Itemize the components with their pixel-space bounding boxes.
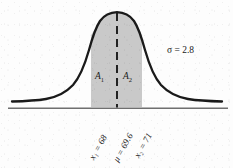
area-label-a1: A1 (95, 72, 104, 83)
distribution-plot (0, 0, 233, 168)
sigma-annotation: σ = 2.8 (167, 46, 194, 56)
area-label-a2: A2 (123, 72, 132, 83)
normal-distribution-figure: A1 A2 σ = 2.8 x₁ = 68 μ = 69.6 x₂ = 71 (0, 0, 233, 168)
